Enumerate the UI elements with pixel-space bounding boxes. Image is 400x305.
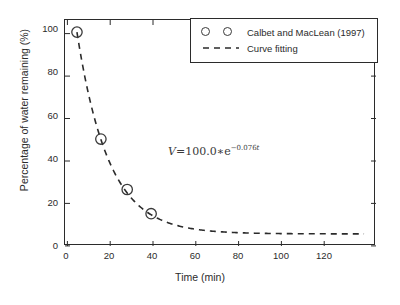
- equation-exponent-value: 0.076: [237, 144, 257, 152]
- y-tick-marks: [65, 34, 376, 246]
- dashed-line-glyph: [197, 41, 245, 55]
- x-tick-label-0: 0: [47, 250, 85, 261]
- data-point-markers: [72, 27, 157, 219]
- legend: Calbet and MacLean (1997) Curve fitting: [190, 18, 378, 63]
- figure: 100 80 60 40 20 0 0 20 40 60 80 100 120 …: [0, 0, 400, 305]
- legend-marker-open-circles: [197, 25, 245, 39]
- y-axis-title: Percentage of water remaining (%): [18, 0, 30, 230]
- equation-variable: V: [168, 145, 176, 158]
- data-point-marker: [146, 209, 156, 219]
- x-tick-label-100: 100: [262, 250, 300, 261]
- legend-entry-fit: Curve fitting: [197, 40, 371, 56]
- fit-equation-annotation: V=100.0∗e−0.076t: [168, 144, 259, 158]
- legend-entry-data: Calbet and MacLean (1997): [197, 24, 371, 40]
- equation-coefficient: 100.0: [185, 145, 217, 158]
- equation-exponent: −0.076t: [231, 144, 260, 152]
- equation-equals: =: [176, 145, 185, 158]
- legend-dashed-line-icon: [197, 41, 245, 55]
- equation-exponent-variable: t: [257, 144, 260, 152]
- open-circle-icon: [201, 27, 210, 36]
- x-tick-label-20: 20: [90, 250, 128, 261]
- x-tick-label-120: 120: [305, 250, 343, 261]
- x-axis-title: Time (min): [0, 271, 400, 283]
- x-tick-label-80: 80: [219, 250, 257, 261]
- open-circle-icon: [223, 27, 232, 36]
- data-point-marker: [96, 134, 106, 144]
- legend-label-fit: Curve fitting: [245, 43, 298, 54]
- legend-label-data: Calbet and MacLean (1997): [245, 27, 365, 38]
- x-tick-label-60: 60: [176, 250, 214, 261]
- x-tick-label-40: 40: [133, 250, 171, 261]
